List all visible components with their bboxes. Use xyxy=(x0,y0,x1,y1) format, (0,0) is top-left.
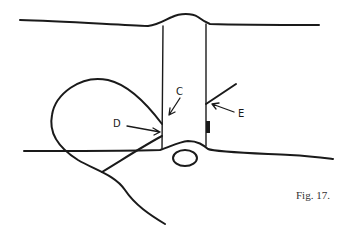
arrow-d xyxy=(127,126,160,135)
figure-17-diagram: C D E Fig. 17. xyxy=(0,0,354,226)
arrow-c xyxy=(169,98,180,115)
tube-left-wall xyxy=(162,26,163,149)
figure-caption: Fig. 17. xyxy=(296,189,330,201)
bottom-boundary-line xyxy=(24,141,333,159)
black-mark xyxy=(206,121,210,133)
arrow-e xyxy=(212,103,234,112)
line-e xyxy=(206,84,236,104)
diagonal-line-d xyxy=(102,136,162,172)
small-circle xyxy=(173,150,197,166)
label-e: E xyxy=(238,108,244,119)
label-d: D xyxy=(113,118,121,129)
top-boundary-line xyxy=(20,14,319,26)
label-c: C xyxy=(176,86,183,97)
